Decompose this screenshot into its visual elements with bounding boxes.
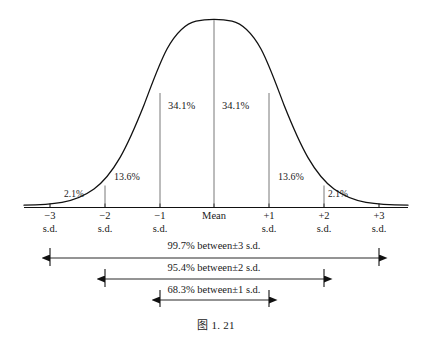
x-tick-sublabel-minus2: s.d. xyxy=(98,223,113,234)
x-tick-sublabel-plus2: s.d. xyxy=(317,223,332,234)
region-percent-mean-to-plus1: 34.1% xyxy=(222,100,249,111)
x-tick-label-mean: Mean xyxy=(202,210,226,221)
x-tick-label-plus3: +3 xyxy=(373,210,384,221)
x-tick-sublabel-minus1: s.d. xyxy=(153,223,168,234)
x-tick-label-minus1: −1 xyxy=(154,210,165,221)
range-label-3sd: 99.7% between±3 s.d. xyxy=(168,240,261,251)
x-tick-sublabel-minus3: s.d. xyxy=(43,223,58,234)
range-label-1sd: 68.3% between±1 s.d. xyxy=(168,284,261,295)
range-label-2sd: 95.4% between±2 s.d. xyxy=(168,262,261,273)
x-tick-label-plus1: +1 xyxy=(263,210,274,221)
x-tick-label-minus2: −2 xyxy=(99,210,110,221)
x-tick-label-plus2: +2 xyxy=(318,210,329,221)
normal-curve xyxy=(24,19,408,205)
x-tick-sublabel-plus1: s.d. xyxy=(262,223,277,234)
x-tick-sublabel-plus3: s.d. xyxy=(372,223,387,234)
region-percent-minus3-to-minus2: 2.1% xyxy=(64,190,84,200)
figure-caption: 图 1. 21 xyxy=(197,320,235,332)
region-percent-plus1-to-plus2: 13.6% xyxy=(278,172,304,183)
distribution-diagram xyxy=(0,0,432,350)
region-percent-minus1-to-mean: 34.1% xyxy=(168,100,195,111)
x-tick-label-minus3: −3 xyxy=(44,210,55,221)
region-percent-minus2-to-minus1: 13.6% xyxy=(114,172,140,183)
x-axis-ticks xyxy=(50,204,379,208)
region-percent-plus2-to-plus3: 2.1% xyxy=(328,190,348,200)
normal-distribution-figure: 2.1% 13.6% 34.1% 34.1% 13.6% 2.1% −3 −2 … xyxy=(0,0,432,350)
